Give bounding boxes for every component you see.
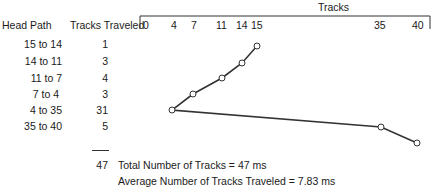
point-40 — [414, 140, 420, 146]
point-11 — [219, 75, 225, 81]
seek-path-chart — [0, 0, 439, 192]
point-14 — [239, 60, 245, 66]
seek-points — [169, 43, 420, 146]
point-35 — [378, 124, 384, 130]
point-7 — [190, 91, 196, 97]
axis — [140, 16, 430, 29]
point-4 — [169, 107, 175, 113]
point-15 — [254, 43, 260, 49]
